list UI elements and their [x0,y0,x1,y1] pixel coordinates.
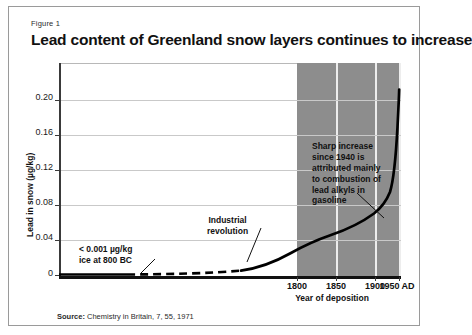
source-line: Source: Chemistry in Britain, 7, 55, 197… [57,312,194,321]
source-prefix: Source: [57,312,85,321]
x-axis-title: Year of deposition [267,293,397,303]
leader-line-industrial-annotation [247,228,261,262]
figure-label: Figure 1 [31,19,60,28]
x-tick-label-1850: 1850 [316,281,356,291]
source-text: Chemistry in Britain, 7, 55, 1971 [85,312,194,321]
annotation-sharp-increase: Sharp increase since 1940 is attributed … [312,141,381,206]
y-tick-label-004: 0.04 [11,232,53,242]
y-tick-label-000: 0 [11,268,53,278]
figure-title: Lead content of Greenland snow layers co… [31,31,472,49]
y-tick-label-020: 0.20 [11,92,53,102]
curve-segment-dashed [127,271,241,275]
leader-line-ice-annotation [141,259,155,273]
y-tick-label-012: 0.12 [11,162,53,172]
x-tick-label-1950: 1950 AD [373,281,421,291]
y-tick-label-008: 0.08 [11,197,53,207]
x-tick-label-1800: 1800 [277,281,317,291]
annotation-ancient-ice: < 0.001 µg/kg ice at 800 BC [79,244,132,266]
figure-container: Figure 1 Lead content of Greenland snow … [8,6,420,326]
y-tick-label-016: 0.16 [11,127,53,137]
annotation-industrial-revolution: Industrial revolution [207,215,248,237]
